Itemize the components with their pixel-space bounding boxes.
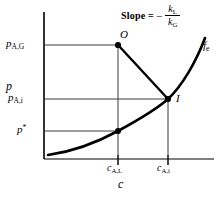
- x-tick-label-c-al: cA,L: [107, 163, 122, 173]
- point-I-marker: [165, 96, 171, 102]
- slope-minus-sign: −: [156, 10, 162, 22]
- y-tick-label-p-ag: pA,G: [6, 38, 24, 49]
- curve-label-fe: fe: [203, 40, 209, 51]
- slope-fraction: kL kG: [165, 4, 180, 27]
- x-tick-label-c-ai: cA,i: [157, 163, 170, 173]
- y-tick-label-p-star: p*: [17, 124, 26, 135]
- slope-annotation-text: Slope =: [121, 10, 154, 21]
- mass-transfer-driving-force-figure: pA,G pA,i p* p c cA,L cA,i O I fe Slope …: [0, 0, 223, 197]
- point-p-star-marker: [115, 128, 121, 134]
- slope-annotation: Slope = − kL kG: [121, 4, 180, 27]
- slope-numerator: kL: [166, 4, 179, 15]
- point-label-I: I: [176, 93, 180, 104]
- point-O-marker: [115, 42, 121, 48]
- point-label-O: O: [120, 29, 128, 40]
- slope-line-O-to-I: [119, 46, 168, 99]
- x-axis-label: c: [118, 178, 123, 190]
- slope-denominator: kG: [166, 16, 179, 27]
- y-tick-label-p-ai: pA,i: [8, 92, 23, 103]
- y-axis-label: p: [6, 80, 12, 92]
